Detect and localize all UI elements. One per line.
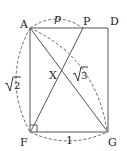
label-G: G bbox=[108, 136, 117, 149]
svg-text:3: 3 bbox=[81, 70, 87, 81]
label-P: P bbox=[83, 15, 91, 28]
label-sqrt2: 2 bbox=[5, 77, 21, 91]
label-1: 1 bbox=[66, 134, 73, 147]
svg-text:2: 2 bbox=[14, 80, 20, 91]
label-A: A bbox=[19, 18, 29, 31]
segment-AG bbox=[30, 28, 107, 131]
label-p: p bbox=[54, 12, 61, 25]
label-sqrt3: 3 bbox=[73, 67, 88, 81]
label-F: F bbox=[20, 136, 28, 149]
label-D: D bbox=[110, 15, 119, 28]
label-X: X bbox=[49, 69, 57, 82]
geometry-diagram: A P D X F G p 2 3 1 bbox=[0, 0, 127, 151]
